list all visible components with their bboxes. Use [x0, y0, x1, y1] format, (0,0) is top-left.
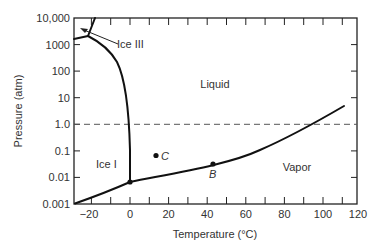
point-c-marker — [153, 153, 158, 158]
sublimation-curve — [75, 182, 130, 204]
region-label-ice1: Ice I — [96, 158, 117, 170]
region-label-liquid: Liquid — [200, 78, 229, 90]
region-label-ice3: Ice III — [117, 38, 144, 50]
x-tick-labels: −20 0 20 40 60 80 100 120 — [80, 208, 368, 220]
x-ticks-bottom — [91, 197, 342, 204]
y-tick-label: 10 — [58, 92, 70, 104]
y-axis-title: Pressure (atm) — [12, 75, 24, 148]
y-tick-label: 1000 — [46, 39, 70, 51]
point-b-marker — [210, 161, 215, 166]
x-tick-label: 100 — [314, 208, 332, 220]
x-tick-label: 80 — [278, 208, 290, 220]
y-tick-label: 1.0 — [55, 118, 70, 130]
region-label-vapor: Vapor — [283, 161, 312, 173]
x-tick-label: 60 — [240, 208, 252, 220]
x-tick-label: 120 — [349, 208, 367, 220]
y-tick-label: 10,000 — [36, 12, 70, 24]
y-tick-label: 0.1 — [55, 145, 70, 157]
point-label-b: B — [209, 168, 216, 180]
phase-diagram: 10,000 1000 100 10 1.0 0.1 0.01 0.001 −2… — [0, 0, 381, 248]
vaporization-curve — [130, 106, 344, 182]
point-label-c: C — [161, 150, 169, 162]
y-ticks-left — [74, 45, 80, 178]
x-tick-label: 0 — [127, 208, 133, 220]
y-tick-labels: 10,000 1000 100 10 1.0 0.1 0.01 0.001 — [36, 12, 70, 210]
x-tick-label: −20 — [80, 208, 99, 220]
x-tick-label: 20 — [162, 208, 174, 220]
triple-point-marker — [127, 179, 132, 184]
y-tick-label: 0.01 — [49, 171, 70, 183]
x-axis-title: Temperature (°C) — [173, 228, 257, 240]
ice1-ice3-boundary — [74, 36, 88, 39]
y-ticks-right — [351, 45, 357, 178]
y-tick-label: 100 — [52, 65, 70, 77]
y-tick-label: 0.001 — [42, 198, 70, 210]
x-tick-label: 40 — [201, 208, 213, 220]
x-ticks-top — [91, 18, 342, 25]
